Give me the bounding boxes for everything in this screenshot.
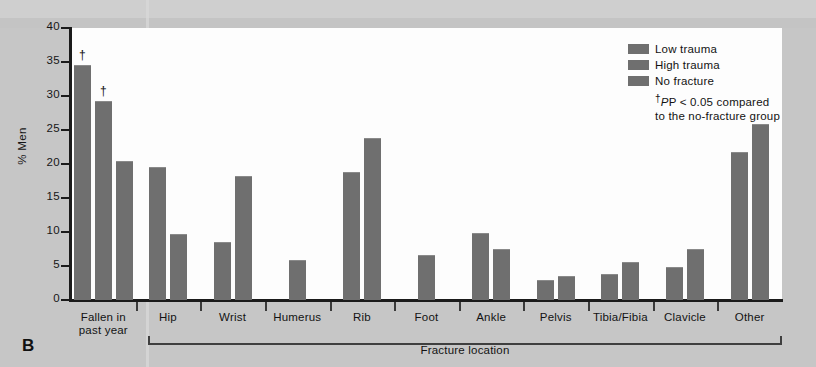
- legend: Low trauma High trauma No fracture: [628, 42, 720, 90]
- x-axis-label-line: Clavicle: [664, 311, 706, 323]
- bar: [235, 176, 252, 300]
- bar: [95, 101, 112, 300]
- bar: [472, 233, 489, 300]
- x-axis-label-line: Wrist: [219, 311, 246, 323]
- x-axis-category-label: Tibia/Fibia: [588, 311, 653, 324]
- bar: [601, 274, 618, 300]
- y-axis-tick-label: 40: [20, 20, 60, 32]
- x-axis-category-label: Hip: [136, 311, 201, 324]
- x-axis-label-line: Fallen in: [81, 311, 126, 323]
- y-axis-tick-label: 15: [20, 190, 60, 202]
- footnote-p-italic: P: [661, 96, 669, 108]
- bar: [687, 249, 704, 300]
- bar: [343, 172, 360, 300]
- bar: [752, 124, 769, 300]
- bar: [731, 152, 748, 300]
- significance-footnote: †PP < 0.05 compared to the no-fracture g…: [655, 92, 805, 123]
- bar: [622, 262, 639, 300]
- x-axis-category-label: Pelvis: [523, 311, 588, 324]
- legend-item-low-trauma: Low trauma: [628, 42, 720, 56]
- y-axis-tick-label: 10: [20, 224, 60, 236]
- x-axis-category-label: Humerus: [265, 311, 330, 324]
- significance-dagger-icon: †: [96, 84, 110, 98]
- bar: [74, 65, 91, 300]
- x-axis-label-line: Foot: [415, 311, 439, 323]
- bar: [537, 280, 554, 300]
- x-axis-category-label: Other: [717, 311, 782, 324]
- scan-band-top: [0, 0, 816, 18]
- bar: [666, 267, 683, 300]
- x-axis-category-label: Rib: [330, 311, 395, 324]
- figure-panel-b: 0510152025303540 % Men †† Fallen inpast …: [0, 0, 816, 367]
- footnote-line-2: to the no-fracture group: [655, 110, 780, 122]
- x-axis-tick: [265, 302, 267, 311]
- x-axis-tick: [136, 302, 138, 311]
- x-axis-label-line: past year: [79, 324, 128, 336]
- x-axis-tick: [330, 302, 332, 311]
- x-axis-label-line: Other: [735, 311, 765, 323]
- y-axis-tick: [61, 197, 70, 199]
- bar: [558, 276, 575, 300]
- legend-swatch-icon: [628, 76, 649, 86]
- x-axis-tick: [588, 302, 590, 311]
- y-axis-tick: [61, 61, 70, 63]
- y-axis-tick: [61, 95, 70, 97]
- legend-item-high-trauma: High trauma: [628, 58, 720, 72]
- x-axis-category-label: Foot: [394, 311, 459, 324]
- bar: [214, 242, 231, 300]
- x-axis-tick: [200, 302, 202, 311]
- y-axis-tick-label: 0: [20, 292, 60, 304]
- y-axis-tick: [61, 231, 70, 233]
- significance-dagger-icon: †: [75, 48, 89, 62]
- y-axis-tick-label: 35: [20, 54, 60, 66]
- legend-label: Low trauma: [655, 43, 717, 55]
- x-axis-label-line: Humerus: [273, 311, 321, 323]
- legend-label: No fracture: [655, 75, 714, 87]
- x-axis-label-line: Hip: [159, 311, 177, 323]
- y-axis-tick: [61, 163, 70, 165]
- bar: [493, 249, 510, 300]
- y-axis-tick: [61, 265, 70, 267]
- x-axis-category-label: Wrist: [200, 311, 265, 324]
- x-axis-title: Fracture location: [148, 344, 782, 356]
- bar: [149, 167, 166, 300]
- x-axis-category-label: Ankle: [459, 311, 524, 324]
- y-axis-tick: [61, 27, 70, 29]
- y-axis-title: % Men: [16, 106, 28, 186]
- bar: [116, 161, 133, 300]
- x-axis-label-line: Ankle: [476, 311, 506, 323]
- bar: [289, 260, 306, 300]
- y-axis-tick-label: 5: [20, 258, 60, 270]
- bar: [418, 255, 435, 300]
- x-axis-category-label: Clavicle: [653, 311, 718, 324]
- x-axis-tick: [523, 302, 525, 311]
- legend-item-no-fracture: No fracture: [628, 74, 720, 88]
- x-axis-label-line: Rib: [353, 311, 371, 323]
- legend-label: High trauma: [655, 59, 720, 71]
- bar: [170, 234, 187, 300]
- y-axis-tick-label: 30: [20, 88, 60, 100]
- bar: [364, 138, 381, 300]
- footnote-line-1: P < 0.05 compared: [669, 96, 770, 108]
- panel-label: B: [22, 336, 34, 356]
- x-axis-tick: [653, 302, 655, 311]
- x-axis-label-line: Pelvis: [540, 311, 572, 323]
- x-axis-label-line: Tibia/Fibia: [593, 311, 648, 323]
- x-axis-tick: [717, 302, 719, 311]
- y-axis-tick: [61, 129, 70, 131]
- x-axis-tick: [394, 302, 396, 311]
- legend-swatch-icon: [628, 44, 649, 54]
- legend-swatch-icon: [628, 60, 649, 70]
- scan-band-top-secondary: [0, 18, 816, 28]
- x-axis-category-label: Fallen inpast year: [71, 311, 136, 337]
- y-axis-tick: [61, 299, 70, 301]
- x-axis-tick: [459, 302, 461, 311]
